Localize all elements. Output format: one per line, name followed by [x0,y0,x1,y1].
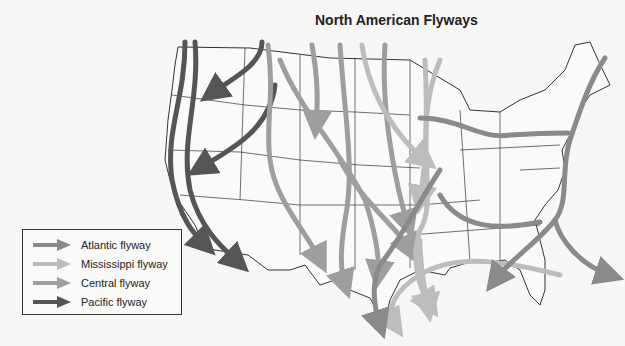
legend-label: Pacific flyway [81,296,147,308]
legend-item-atlantic: Atlantic flyway [33,236,151,254]
legend-label: Atlantic flyway [81,239,151,251]
us-outline [165,42,610,320]
legend-item-pacific: Pacific flyway [33,293,147,311]
map-legend: Atlantic flyway Mississippi flyway Centr… [22,229,182,315]
legend-item-central: Central flyway [33,274,150,292]
arrow-icon [33,238,73,252]
legend-label: Mississippi flyway [81,258,168,270]
legend-label: Central flyway [81,277,150,289]
arrow-icon [33,295,73,309]
arrow-icon [33,257,73,271]
arrow-icon [33,276,73,290]
legend-item-mississippi: Mississippi flyway [33,255,168,273]
